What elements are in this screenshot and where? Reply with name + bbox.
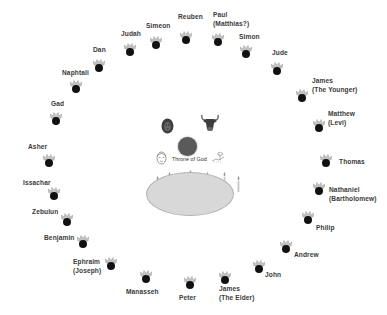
apostle-label-james-elder: James(The Elder) [219,285,255,302]
head-icon [273,67,281,75]
tribe-label-gad: Gad [51,100,64,109]
head-icon [315,124,323,132]
tribe-label-simeon: Simeon [146,22,170,31]
elder-figure-nathaniel [312,182,326,198]
elder-figure-simeon [149,36,163,52]
apostle-label-andrew: Andrew [294,251,319,260]
elder-figure-naphtali [69,80,83,96]
head-icon [282,245,290,253]
elder-figure-philip [301,211,315,227]
tribe-label-manasseh: Manasseh [126,288,159,297]
tribe-label-benjamin: Benjamin [44,234,74,243]
lion-icon [161,118,174,134]
throne-of-god-circle [178,137,197,156]
label-line2: (Matthias?) [213,20,249,29]
elder-figure-thomas [319,154,333,170]
label-line2: (The Elder) [219,294,255,303]
head-icon [221,276,229,284]
apostle-label-james-younger: James(The Younger) [312,77,357,94]
elder-figure-simon [239,45,253,61]
apostle-label-peter: Peter [179,294,196,303]
tribe-label-asher: Asher [28,143,47,152]
head-icon [95,64,103,72]
apostle-label-jude: Jude [272,49,288,58]
head-icon [152,41,160,49]
elder-figure-issachar [47,187,61,203]
apostle-label-thomas: Thomas [339,158,365,167]
elder-figure-james-younger [295,89,309,105]
elder-figure-manasseh [139,270,153,286]
head-icon [214,38,222,46]
elder-figure-gad [49,112,63,128]
elder-figure-ephraim [104,257,118,273]
head-icon [298,94,306,102]
head-icon [182,36,190,44]
label-line1: Ephraim [73,258,101,267]
elder-figure-peter [183,276,197,292]
lamp-icon [236,176,241,192]
head-icon [304,216,312,224]
elder-figure-andrew [279,240,293,256]
label-line2: (Bartholomew) [329,195,376,204]
head-icon [45,159,53,167]
apostle-label-john: John [265,271,281,280]
apostle-label-matthew: Matthew(Levi) [328,110,355,127]
elder-figure-james-elder [218,271,232,287]
head-icon [50,192,58,200]
tribe-label-ephraim: Ephraim(Joseph) [73,258,101,275]
head-icon [142,275,150,283]
head-icon [315,187,323,195]
elder-figure-benjamin [76,235,90,251]
man-icon [156,151,167,165]
elder-figure-judah [123,43,137,59]
label-line2: (Joseph) [73,267,101,276]
label-line1: James [312,77,357,86]
head-icon [126,48,134,56]
elder-figure-reuben [179,31,193,47]
elder-figure-paul [211,33,225,49]
label-line2: (The Younger) [312,86,357,95]
tribe-label-zebulun: Zebulun [32,208,58,217]
label-line1: Paul [213,11,249,20]
elder-figure-asher [42,154,56,170]
head-icon [79,240,87,248]
elder-figure-john [252,260,266,276]
eagle-icon [210,151,226,165]
head-icon [52,117,60,125]
apostle-label-simon: Simon [239,33,260,42]
tribe-label-reuben: Reuben [178,13,203,22]
elder-figure-jude [270,62,284,78]
ox-icon [200,114,220,132]
elder-figure-zebulun [60,213,74,229]
label-line1: Nathaniel [329,186,376,195]
tribe-label-dan: Dan [93,46,106,55]
tribe-label-judah: Judah [121,30,141,39]
head-icon [63,218,71,226]
head-icon [242,50,250,58]
apostle-label-philip: Philip [316,224,335,233]
head-icon [186,281,194,289]
head-icon [255,265,263,273]
tribe-label-naphtali: Naphtali [62,69,89,78]
head-icon [72,85,80,93]
sea-of-glass [146,172,234,216]
head-icon [107,262,115,270]
elder-figure-dan [92,59,106,75]
head-icon [322,159,330,167]
apostle-label-paul: Paul(Matthias?) [213,11,249,28]
throne-of-god-label: Throne of God [172,156,207,162]
label-line1: Matthew [328,110,355,119]
apostle-label-nathaniel: Nathaniel(Bartholomew) [329,186,376,203]
elder-figure-matthew [312,119,326,135]
label-line2: (Levi) [328,119,355,128]
